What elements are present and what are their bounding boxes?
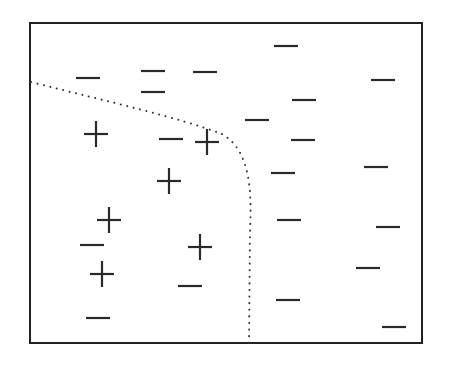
plus-icon bbox=[97, 207, 121, 233]
plus-icon bbox=[84, 121, 108, 147]
decision-boundary-diagram bbox=[0, 0, 470, 365]
plot-frame bbox=[30, 23, 422, 343]
positive-examples bbox=[84, 121, 219, 287]
plus-icon bbox=[157, 168, 181, 194]
plus-icon bbox=[188, 234, 212, 260]
negative-examples bbox=[76, 46, 406, 327]
plus-icon bbox=[195, 129, 219, 155]
decision-boundary-curve bbox=[31, 82, 251, 343]
plus-icon bbox=[90, 261, 114, 287]
